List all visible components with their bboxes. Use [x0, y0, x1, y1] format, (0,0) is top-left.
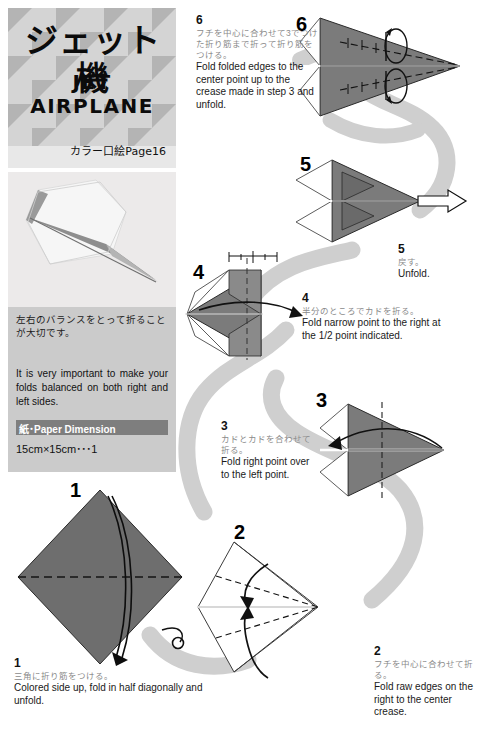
- step-4-english: Fold narrow point to the right at the 1/…: [302, 317, 452, 342]
- step-4-japanese: 半分のところでカドを折る。: [302, 306, 452, 317]
- step-6-number: 6: [196, 14, 318, 27]
- figure-label-3: 3: [316, 390, 327, 410]
- figure-step-3: 3: [320, 392, 492, 504]
- step-text-3: 3 カドとカドを合わせて折る。 Fold right point over to…: [221, 420, 313, 481]
- title-english: JET AIRPLANE: [8, 70, 176, 118]
- paper-dimension-label: 紙･Paper Dimension: [19, 421, 116, 436]
- step-text-1: 1 三角に折り筋をつける。 Colored side up, fold in h…: [14, 657, 204, 707]
- figure-step-4: 4: [185, 248, 315, 363]
- step-4-number: 4: [302, 292, 452, 305]
- step-2-english: Fold raw edges on the right to the cente…: [374, 681, 484, 719]
- step-1-english: Colored side up, fold in half diagonally…: [14, 682, 204, 707]
- step-3-english: Fold right point over to the left point.: [221, 456, 313, 481]
- figure-step-5: 5: [290, 152, 480, 250]
- turn-over-symbol-icon: [162, 628, 184, 648]
- step-2-japanese: フチを中心に合わせて折る。: [374, 659, 484, 681]
- info-panel: 左右のバランスをとって折ることが大切です。 It is very importa…: [8, 307, 176, 472]
- title-english-line2: AIRPLANE: [8, 94, 176, 118]
- figure-label-1: 1: [70, 480, 81, 500]
- origami-instruction-page: ジェット機 JET AIRPLANE カラー口絵Page16 左右のバランスをと…: [0, 0, 497, 729]
- paper-dimension-bar: 紙･Paper Dimension: [16, 420, 168, 435]
- jet-plane-photo-illustration: [8, 172, 176, 307]
- figure-label-4: 4: [193, 262, 204, 282]
- info-english-note: It is very important to make your folds …: [16, 367, 168, 409]
- step-6-english: Fold folded edges to the center point up…: [196, 61, 318, 111]
- step-3-japanese: カドとカドを合わせて折る。: [221, 434, 313, 456]
- figure-step-6: 6: [300, 6, 480, 126]
- step-1-japanese: 三角に折り筋をつける。: [14, 671, 204, 682]
- step-5-english: Unfold.: [398, 268, 488, 281]
- step-6-japanese: フチを中心に合わせて3でつけた折り筋まで折って折り筋をつける。: [196, 28, 318, 61]
- figure-label-2: 2: [234, 522, 245, 542]
- step-text-4: 4 半分のところでカドを折る。 Fold narrow point to the…: [302, 292, 452, 342]
- figure-label-5: 5: [300, 154, 311, 174]
- step-5-japanese: 戻す。: [398, 257, 488, 268]
- step-text-2: 2 フチを中心に合わせて折る。 Fold raw edges on the ri…: [374, 645, 484, 719]
- step-text-5: 5 戻す。 Unfold.: [398, 243, 488, 281]
- title-page-reference: カラー口絵Page16: [70, 142, 166, 158]
- step-3-number: 3: [221, 420, 313, 433]
- title-english-line1: JET: [8, 70, 176, 94]
- unfold-arrow-icon: [418, 190, 466, 212]
- step-1-number: 1: [14, 657, 204, 670]
- figure-step-1: 1: [12, 482, 187, 672]
- step-2-number: 2: [374, 645, 484, 658]
- figure-step-2: 2: [196, 532, 384, 680]
- paper-dimension-value: 15cm×15cm･･･1: [16, 440, 97, 456]
- step-5-number: 5: [398, 243, 488, 256]
- info-japanese-note: 左右のバランスをとって折ることが大切です。: [16, 313, 168, 339]
- model-photo: [8, 172, 176, 307]
- step-text-6: 6 フチを中心に合わせて3でつけた折り筋まで折って折り筋をつける。 Fold f…: [196, 14, 318, 111]
- title-block: ジェット機 JET AIRPLANE カラー口絵Page16: [8, 8, 176, 168]
